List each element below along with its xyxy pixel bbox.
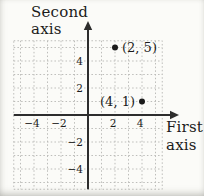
coordinate-plane: −4−22442−2−4(2, 5)(4, 1) xyxy=(0,0,204,196)
data-point-dot xyxy=(112,45,118,51)
data-point-label: (4, 1) xyxy=(100,94,135,109)
y-tick-label: −2 xyxy=(68,136,83,148)
y-axis-arrow xyxy=(84,21,92,30)
x-tick-label: 4 xyxy=(137,117,144,129)
y-tick-label: 2 xyxy=(76,82,83,94)
graph-figure: Second axis First axis −4−22442−2−4(2, 5… xyxy=(0,0,204,196)
data-point-label: (2, 5) xyxy=(122,40,157,55)
y-tick-label: 4 xyxy=(76,55,83,67)
y-tick-label: −4 xyxy=(68,163,84,175)
x-tick-label: 2 xyxy=(110,117,117,129)
x-tick-label: −4 xyxy=(24,117,40,129)
x-axis-arrow xyxy=(170,111,179,119)
x-tick-label: −2 xyxy=(51,117,66,129)
data-point-dot xyxy=(139,99,145,105)
